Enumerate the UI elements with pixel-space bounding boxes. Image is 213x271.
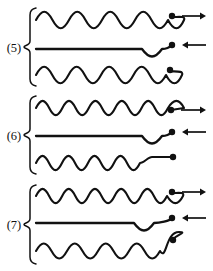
- wave-row-incident-wave: [36, 12, 206, 29]
- end-point-dot: [167, 67, 173, 73]
- direction-arrow-left: [182, 215, 206, 222]
- end-point-dot: [170, 154, 176, 160]
- waveform-path: [36, 45, 172, 57]
- waveform-path: [36, 101, 184, 115]
- direction-arrow-right: [182, 189, 206, 196]
- wave-diagram: (5)(6)(7): [0, 0, 213, 271]
- waveform-path: [36, 12, 184, 29]
- arrow-head: [182, 42, 188, 49]
- arrow-head: [200, 107, 206, 114]
- arrow-head: [182, 129, 188, 136]
- wave-group-2: (6): [7, 96, 206, 174]
- waveform-path: [36, 232, 182, 259]
- arrow-head: [182, 215, 188, 222]
- group-label: (6): [7, 129, 22, 143]
- arrow-head: [200, 189, 206, 196]
- wave-row-reflected-wave: [36, 67, 182, 84]
- wave-row-incident-wave: [36, 101, 206, 115]
- direction-arrow-left: [182, 129, 206, 136]
- direction-arrow-left: [182, 42, 206, 49]
- wave-row-incident-wave: [36, 189, 206, 204]
- waveform-path: [36, 67, 182, 84]
- group-brace: [24, 96, 36, 174]
- wave-group-3: (7): [7, 185, 206, 264]
- wave-row-transmitted-line: [36, 215, 206, 231]
- end-point-dot: [169, 42, 175, 48]
- end-point-dot: [169, 215, 175, 221]
- wave-row-reflected-wave: [36, 232, 182, 259]
- wave-group-1: (5): [7, 8, 206, 86]
- end-point-dot: [169, 129, 175, 135]
- group-brace: [24, 8, 36, 86]
- end-point-dot: [169, 13, 175, 19]
- waveform-path: [36, 189, 183, 203]
- waveform-path: [36, 218, 172, 231]
- waveform-path: [36, 156, 173, 170]
- end-point-dot: [169, 189, 175, 195]
- direction-arrow-right: [182, 13, 206, 20]
- arrow-head: [200, 13, 206, 20]
- end-point-dot: [168, 107, 174, 113]
- wave-row-transmitted-line: [36, 42, 206, 57]
- group-label: (7): [7, 218, 22, 232]
- group-label: (5): [7, 41, 22, 55]
- wave-row-transmitted-line: [36, 129, 206, 144]
- group-brace: [24, 185, 36, 264]
- waveform-path: [36, 132, 172, 144]
- end-point-dot: [170, 237, 176, 243]
- wave-row-reflected-wave: [36, 154, 176, 170]
